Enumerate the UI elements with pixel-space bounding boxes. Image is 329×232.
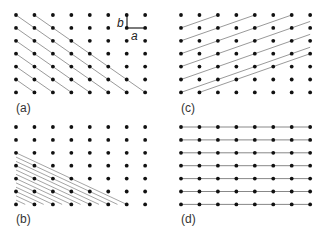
lattice-point	[88, 91, 92, 95]
lattice-point	[69, 203, 73, 207]
lattice-point	[179, 52, 183, 56]
lattice-point	[106, 65, 110, 69]
lattice-point	[253, 125, 257, 129]
lattice-point	[234, 39, 238, 43]
lattice-point	[14, 78, 18, 82]
lattice-point	[106, 203, 110, 207]
lattice-point	[88, 52, 92, 56]
lattice-point	[143, 177, 147, 181]
lattice-point	[308, 151, 312, 155]
lattice-point	[125, 39, 129, 43]
lattice-point	[143, 78, 147, 82]
lattice-point	[198, 125, 202, 129]
lattice-point	[290, 13, 294, 17]
lattice-point	[271, 190, 275, 194]
lattice-point	[253, 78, 257, 82]
lattice-point	[125, 190, 129, 194]
lattice-line	[16, 80, 34, 93]
lattice-point	[33, 78, 37, 82]
lattice-point	[253, 177, 257, 181]
lattice-point	[14, 65, 18, 69]
lattice-line	[199, 54, 310, 93]
lattice-point	[216, 91, 220, 95]
lattice-point	[253, 91, 257, 95]
lattice-point	[14, 52, 18, 56]
panel-b: (b)	[14, 125, 147, 226]
lattice-point	[308, 39, 312, 43]
lattice-point	[308, 190, 312, 194]
lattice-point	[198, 203, 202, 207]
lattice-line	[16, 28, 108, 93]
lattice-point	[88, 78, 92, 82]
lattice-point	[88, 164, 92, 168]
lattice-point	[271, 13, 275, 17]
lattice-point	[125, 177, 129, 181]
lattice-point	[290, 91, 294, 95]
lattice-point	[106, 138, 110, 142]
lattice-point	[51, 52, 55, 56]
lattice-point	[216, 164, 220, 168]
lattice-point	[198, 78, 202, 82]
lattice-point	[106, 190, 110, 194]
lattice-point	[253, 190, 257, 194]
lattice-point	[33, 190, 37, 194]
lattice-point	[308, 65, 312, 69]
lattice-point	[308, 125, 312, 129]
lattice-point	[69, 26, 73, 30]
lattice-point	[69, 13, 73, 17]
lattice-point	[308, 203, 312, 207]
lattice-point	[69, 151, 73, 155]
lattice-point	[234, 151, 238, 155]
lattice-point	[198, 52, 202, 56]
lattice-point	[88, 190, 92, 194]
lattice-point	[143, 91, 147, 95]
lattice-point	[179, 203, 183, 207]
lattice-point	[14, 26, 18, 30]
lattice-point	[216, 203, 220, 207]
lattice-point	[290, 78, 294, 82]
lattice-point	[106, 151, 110, 155]
vector-b-label: b	[117, 16, 124, 30]
lattice-point	[51, 65, 55, 69]
lattice-point	[290, 39, 294, 43]
lattice-point	[308, 78, 312, 82]
lattice-point	[106, 13, 110, 17]
lattice-point	[198, 13, 202, 17]
lattice-point	[14, 177, 18, 181]
lattice-point	[179, 125, 183, 129]
lattice-point	[216, 138, 220, 142]
lattice-point	[234, 190, 238, 194]
lattice-point	[253, 203, 257, 207]
lattice-point	[88, 39, 92, 43]
lattice-point	[14, 39, 18, 43]
lattice-line	[181, 15, 218, 28]
panel-d-label: (d)	[181, 212, 196, 226]
lattice-line	[16, 196, 34, 205]
lattice-point	[106, 52, 110, 56]
lattice-point	[69, 164, 73, 168]
lattice-point	[179, 39, 183, 43]
lattice-point	[216, 13, 220, 17]
lattice-point	[198, 164, 202, 168]
lattice-point	[253, 13, 257, 17]
lattice-point	[198, 177, 202, 181]
lattice-point	[198, 151, 202, 155]
vector-a-label: a	[131, 29, 138, 43]
lattice-point	[33, 65, 37, 69]
lattice-point	[125, 151, 129, 155]
lattice-point	[290, 177, 294, 181]
lattice-point	[308, 164, 312, 168]
lattice-point	[33, 52, 37, 56]
lattice-figure: b a (a) (c) (b) (d)	[0, 0, 329, 232]
lattice-point	[216, 125, 220, 129]
lattice-point	[198, 65, 202, 69]
lattice-point	[271, 125, 275, 129]
lattice-point	[253, 52, 257, 56]
lattice-point	[234, 164, 238, 168]
lattice-point	[271, 177, 275, 181]
lattice-point	[14, 91, 18, 95]
lattice-point	[143, 39, 147, 43]
lattice-point	[234, 91, 238, 95]
lattice-point	[216, 26, 220, 30]
lattice-point	[143, 26, 147, 30]
